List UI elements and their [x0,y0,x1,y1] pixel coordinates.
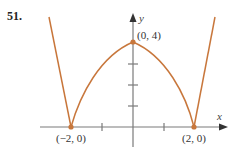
x-axis-arrow-icon [219,124,228,131]
label-2-0: (2, 0) [182,132,206,145]
y-axis-arrow-icon [130,13,137,22]
point-2-0 [191,124,196,129]
label-neg2-0: (−2, 0) [56,132,86,145]
x-axis-label: x [216,110,222,122]
graph: y x (−2, 0) (0, 4) (2, 0) [0,0,238,159]
right-outer-branch [194,17,215,127]
y-axis-label: y [138,12,144,24]
label-0-4: (0, 4) [137,29,161,42]
left-outer-branch [49,17,71,127]
point-0-4 [130,39,135,44]
point-neg2-0 [68,124,73,129]
